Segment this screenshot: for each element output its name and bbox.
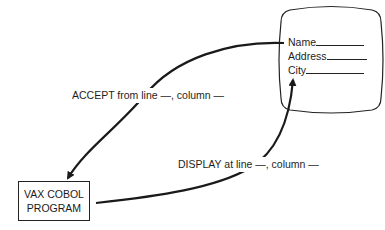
display-label: DISPLAY at line —, column — (178, 158, 319, 170)
screen-field-name: Name (288, 36, 364, 48)
field-label-address: Address (288, 50, 327, 62)
field-underline-city (306, 72, 364, 74)
field-label-name: Name (288, 36, 316, 48)
accept-label: ACCEPT from line —, column — (72, 89, 224, 101)
field-underline-address (327, 58, 367, 60)
screen-field-address: Address (288, 50, 367, 62)
field-label-city: City (288, 64, 306, 76)
vax-cobol-program-box: VAX COBOL PROGRAM (18, 181, 90, 221)
program-box-line2: PROGRAM (27, 201, 81, 215)
program-box-line1: VAX COBOL (24, 187, 84, 201)
field-underline-name (316, 44, 364, 46)
screen-field-city: City (288, 64, 364, 76)
